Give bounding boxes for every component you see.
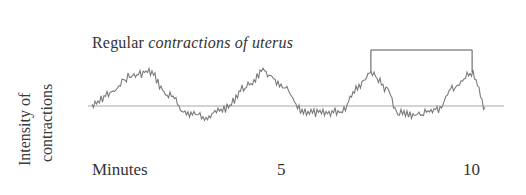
contraction-trace: [92, 68, 485, 120]
x-axis-label: Minutes: [92, 160, 148, 180]
x-tick-5: 5: [277, 160, 286, 180]
interval-bracket: [371, 50, 472, 72]
x-tick-10: 10: [463, 160, 480, 180]
plot-area: [0, 0, 526, 195]
